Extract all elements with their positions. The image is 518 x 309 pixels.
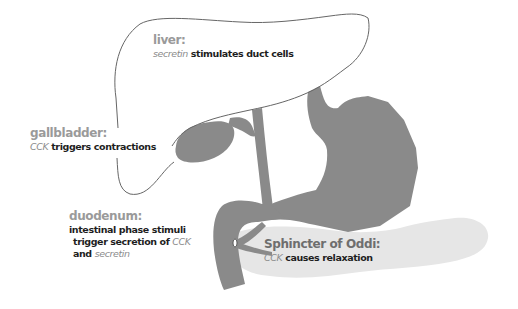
gallbladder-label-body: CCK triggers contractions (30, 141, 156, 153)
duodenum-line-2: trigger secretion of CCK (69, 236, 191, 248)
duodenum-line-1: intestinal phase stimuli (69, 224, 191, 236)
duodenum-hormone-secretin: secretin (95, 248, 130, 259)
duodenum-hormone-cck: CCK (172, 236, 190, 247)
gallbladder-label: gallbladder: CCK triggers contractions (30, 126, 156, 153)
gallbladder-effect-text: triggers contractions (48, 141, 156, 152)
gallbladder-shape (175, 121, 234, 162)
liver-label-body: secretin stimulates duct cells (153, 48, 293, 60)
sphincter-label: Sphincter of Oddi: CCK causes relaxation (264, 237, 380, 264)
sphincter-label-title: Sphincter of Oddi: (264, 237, 380, 252)
liver-label-title: liver: (153, 33, 293, 48)
gallbladder-hormone: CCK (30, 141, 48, 152)
sphincter-hormone: CCK (264, 252, 282, 263)
sphincter-of-oddi-marker (233, 239, 237, 247)
sphincter-effect-text: causes relaxation (282, 252, 372, 263)
liver-label: liver: secretin stimulates duct cells (153, 33, 293, 60)
duodenum-line-3: and secretin (69, 248, 191, 260)
liver-hormone: secretin (153, 48, 188, 59)
stomach-shape (258, 86, 418, 232)
duodenum-label: duodenum: intestinal phase stimuli trigg… (69, 209, 191, 260)
bile-duct-shape (252, 108, 273, 210)
duodenum-label-title: duodenum: (69, 209, 191, 224)
liver-effect-text: stimulates duct cells (188, 48, 294, 59)
sphincter-label-body: CCK causes relaxation (264, 252, 380, 264)
gallbladder-label-title: gallbladder: (30, 126, 156, 141)
